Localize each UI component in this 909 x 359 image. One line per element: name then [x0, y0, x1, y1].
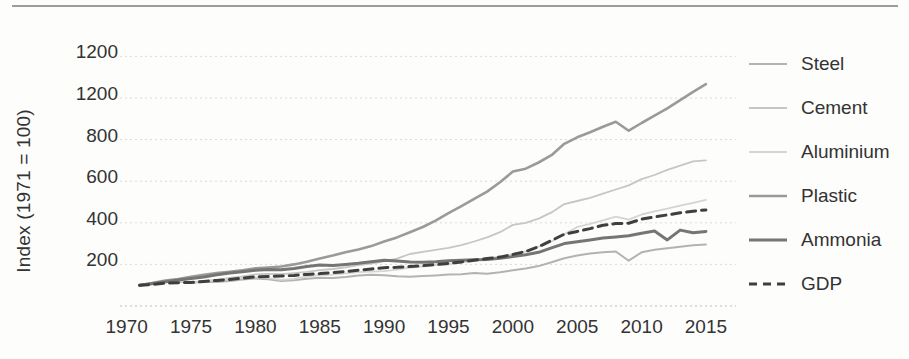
legend-label: Cement — [801, 97, 868, 119]
x-tick-label: 2015 — [674, 316, 738, 338]
x-tick-label: 2000 — [481, 316, 545, 338]
legend-row-gdp: GDP — [748, 271, 842, 297]
legend-label: Steel — [801, 53, 844, 75]
legend-swatch-plastic — [748, 189, 788, 203]
legend-row-aluminium: Aluminium — [748, 139, 890, 165]
legend-swatch-ammonia — [748, 233, 788, 247]
x-tick-label: 1990 — [352, 316, 416, 338]
legend-swatch-gdp — [748, 277, 788, 291]
legend-row-plastic: Plastic — [748, 183, 857, 209]
y-tick-label: 800 — [38, 126, 118, 146]
x-tick-label: 1970 — [95, 316, 159, 338]
x-tick-label: 1975 — [159, 316, 223, 338]
legend-row-cement: Cement — [748, 95, 868, 121]
legend-label: Plastic — [801, 185, 857, 207]
y-tick-label: 1200 — [38, 42, 118, 62]
legend-row-ammonia: Ammonia — [748, 227, 881, 253]
x-tick-label: 1985 — [288, 316, 352, 338]
legend-swatch-aluminium — [748, 145, 788, 159]
y-tick-label: 1200 — [38, 84, 118, 104]
x-tick-label: 2005 — [545, 316, 609, 338]
x-tick-label: 1995 — [417, 316, 481, 338]
legend-row-steel: Steel — [748, 51, 844, 77]
legend-swatch-steel — [748, 57, 788, 71]
y-tick-label: 400 — [38, 209, 118, 229]
y-tick-label: 200 — [38, 250, 118, 270]
legend-label: Ammonia — [801, 229, 881, 251]
y-tick-label: 600 — [38, 167, 118, 187]
legend-swatch-cement — [748, 101, 788, 115]
x-tick-label: 1980 — [223, 316, 287, 338]
legend-label: Aluminium — [801, 141, 890, 163]
x-tick-label: 2010 — [610, 316, 674, 338]
scanned-figure: Index (1971 = 100) 12001200800600400200 … — [0, 0, 909, 359]
legend-label: GDP — [801, 273, 842, 295]
